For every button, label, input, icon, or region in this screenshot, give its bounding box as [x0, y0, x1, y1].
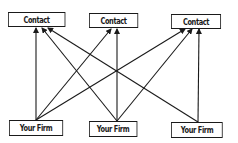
- arrow-firm-1-to-contact-3: [36, 29, 185, 120]
- firm-node-2: Your Firm: [89, 121, 137, 137]
- arrow-firm-1-to-contact-2: [36, 29, 111, 120]
- contact-node-1: Contact: [8, 12, 65, 27]
- arrow-firm-2-to-contact-3: [117, 29, 192, 121]
- arrow-firm-3-to-contact-3: [198, 29, 199, 122]
- firm-node-3: Your Firm: [171, 122, 223, 138]
- firm-node-1: Your Firm: [9, 120, 63, 136]
- contact-node-3: Contact: [171, 14, 221, 29]
- contact-node-2: Contact: [89, 13, 138, 28]
- network-diagram: Contact Contact Contact Your Firm Your F…: [0, 0, 238, 143]
- arrow-firm-2-to-contact-1: [42, 28, 117, 121]
- arrow-firm-3-to-contact-1: [48, 28, 198, 122]
